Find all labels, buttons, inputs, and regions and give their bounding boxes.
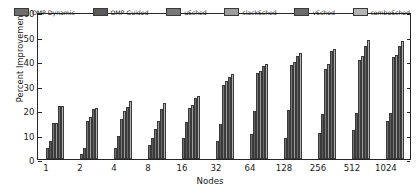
legend-label: OMP-Dynamic xyxy=(32,9,75,16)
legend-label: OMP-Guided xyxy=(111,9,149,16)
x-tick-label-256: 256 xyxy=(310,163,326,173)
legend-label: slackSched xyxy=(242,9,276,16)
y-tick-mark-20 xyxy=(38,112,42,113)
legend-entry-omp-dynamic[interactable]: OMP-Dynamic xyxy=(14,8,75,16)
x-tick-label-32: 32 xyxy=(210,163,221,173)
bar-combosched-16 xyxy=(197,96,200,159)
bar-combosched-1 xyxy=(61,106,64,159)
legend-label: uSched xyxy=(184,9,207,16)
x-tick-label-8: 8 xyxy=(145,163,150,173)
plot-area: 0102030405060 xyxy=(37,13,411,160)
x-tick-label-2: 2 xyxy=(77,163,82,173)
y-tick-mark-40 xyxy=(38,63,42,64)
chart-legend: OMP-DynamicOMP-GuideduSchedslackSchedvSc… xyxy=(6,4,414,20)
y-tick-label-50: 50 xyxy=(24,34,35,44)
bar-combosched-1024 xyxy=(401,41,404,159)
x-tick-label-16: 16 xyxy=(176,163,187,173)
y-tick-mark-50 xyxy=(407,39,411,40)
x-tick-label-512: 512 xyxy=(344,163,360,173)
y-tick-label-10: 10 xyxy=(24,132,35,142)
y-tick-mark-0 xyxy=(407,161,411,162)
x-tick-label-1: 1 xyxy=(43,163,48,173)
x-tick-label-1024: 1024 xyxy=(375,163,397,173)
legend-swatch-icon xyxy=(14,8,29,16)
legend-label: vSched xyxy=(312,9,334,16)
legend-label: comboSched xyxy=(371,9,410,16)
bar-combosched-128 xyxy=(299,53,302,159)
y-tick-label-30: 30 xyxy=(24,83,35,93)
y-tick-mark-20 xyxy=(407,112,411,113)
legend-entry-slacksched[interactable]: slackSched xyxy=(224,8,276,16)
bar-combosched-256 xyxy=(333,49,336,159)
y-tick-mark-10 xyxy=(407,137,411,138)
y-tick-mark-10 xyxy=(38,137,42,138)
bar-combosched-64 xyxy=(265,64,268,159)
y-tick-mark-50 xyxy=(38,39,42,40)
legend-swatch-icon xyxy=(294,8,309,16)
y-tick-mark-0 xyxy=(38,161,42,162)
bar-combosched-2 xyxy=(95,108,98,159)
bar-combosched-32 xyxy=(231,74,234,160)
x-axis-title: Nodes xyxy=(0,176,420,186)
legend-entry-omp-guided[interactable]: OMP-Guided xyxy=(93,8,149,16)
y-tick-mark-30 xyxy=(407,88,411,89)
x-tick-label-64: 64 xyxy=(244,163,255,173)
y-tick-mark-30 xyxy=(38,88,42,89)
y-tick-label-0: 0 xyxy=(29,156,34,166)
legend-swatch-icon xyxy=(353,8,368,16)
legend-entry-vsched[interactable]: vSched xyxy=(294,8,334,16)
bar-combosched-8 xyxy=(163,103,166,159)
y-tick-label-20: 20 xyxy=(24,107,35,117)
legend-swatch-icon xyxy=(166,8,181,16)
legend-entry-usched[interactable]: uSched xyxy=(166,8,207,16)
y-tick-mark-40 xyxy=(407,63,411,64)
bar-combosched-4 xyxy=(129,101,132,159)
legend-entry-combosched[interactable]: comboSched xyxy=(353,8,410,16)
legend-swatch-icon xyxy=(93,8,108,16)
legend-swatch-icon xyxy=(224,8,239,16)
x-tick-label-4: 4 xyxy=(111,163,116,173)
x-tick-label-128: 128 xyxy=(276,163,292,173)
bar-combosched-512 xyxy=(367,40,370,159)
y-tick-label-40: 40 xyxy=(24,58,35,68)
bar-chart-figure: 0102030405060 Percent Improvement Nodes … xyxy=(0,0,420,194)
